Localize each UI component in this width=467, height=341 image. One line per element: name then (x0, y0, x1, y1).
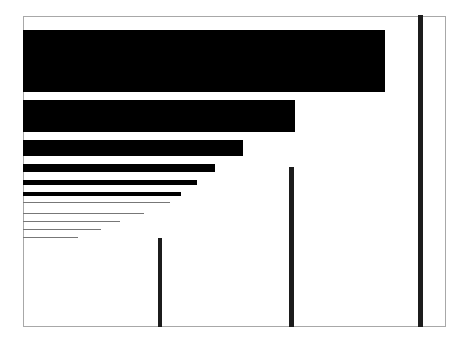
vertical-bar (158, 238, 162, 327)
horizontal-bar (23, 202, 170, 203)
vertical-bar (418, 15, 423, 327)
horizontal-bar (23, 213, 144, 214)
horizontal-bar (23, 221, 120, 222)
horizontal-bar (23, 164, 215, 172)
horizontal-bar (23, 192, 181, 196)
vertical-bar (289, 167, 294, 327)
horizontal-bar (23, 30, 385, 92)
horizontal-bar (23, 140, 243, 156)
horizontal-bar (23, 237, 78, 238)
horizontal-bar (23, 100, 295, 132)
horizontal-bar (23, 229, 101, 230)
horizontal-bar (23, 180, 197, 185)
